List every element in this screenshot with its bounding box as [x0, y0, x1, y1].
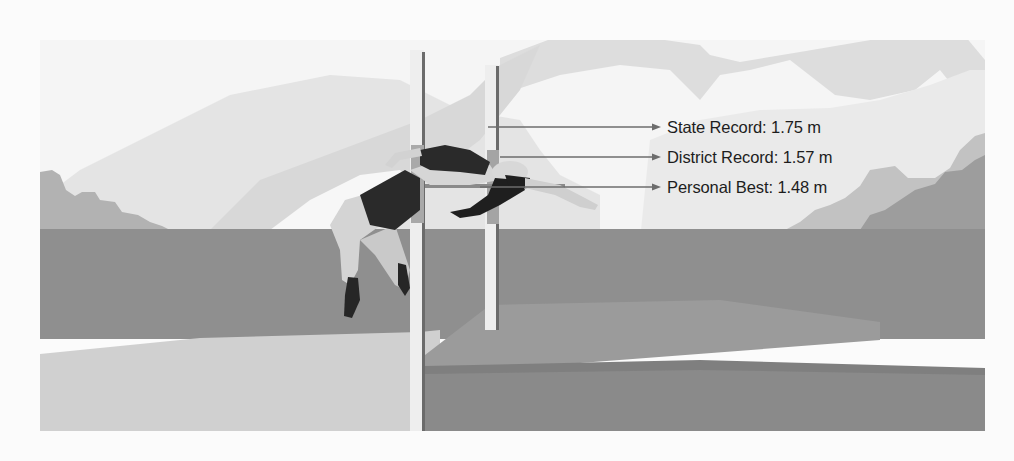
left-standard-post: [410, 50, 424, 431]
left-standard-line: [422, 52, 425, 431]
high-jump-illustration: [0, 0, 1014, 461]
sand-area: [40, 330, 440, 431]
landing-mat: [425, 365, 985, 431]
